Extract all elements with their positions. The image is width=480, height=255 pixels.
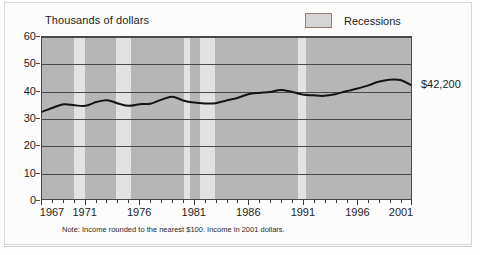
- legend-label-recessions: Recessions: [344, 15, 401, 27]
- y-tick-mark: [36, 200, 40, 201]
- x-tick-mark: [368, 200, 369, 203]
- x-tick-mark: [41, 200, 42, 205]
- legend: Recessions: [305, 13, 401, 28]
- x-tick-mark: [379, 200, 380, 203]
- x-tick-label: 1981: [182, 206, 206, 218]
- x-tick-mark: [205, 200, 206, 203]
- x-tick-mark: [259, 200, 260, 203]
- y-axis-title: Thousands of dollars: [45, 14, 149, 26]
- x-tick-label: 1971: [72, 206, 96, 218]
- x-tick-mark: [216, 200, 217, 203]
- x-tick-mark: [303, 200, 304, 205]
- series-line-income: [42, 37, 411, 199]
- x-tick-mark: [161, 200, 162, 203]
- x-tick-mark: [194, 200, 195, 205]
- x-tick-mark: [314, 200, 315, 203]
- x-tick-mark: [183, 200, 184, 203]
- y-tick-label: 0: [14, 194, 36, 206]
- y-tick-mark: [36, 63, 40, 64]
- x-tick-mark: [139, 200, 140, 205]
- x-tick-mark: [150, 200, 151, 203]
- x-tick-mark: [357, 200, 358, 205]
- y-tick-label: 30: [14, 112, 36, 124]
- x-tick-mark: [390, 200, 391, 203]
- legend-swatch-recessions: [305, 13, 332, 28]
- chart-note: Note: Income rounded to the nearest $100…: [62, 225, 285, 234]
- end-value-annotation: $42,200: [421, 78, 461, 90]
- y-tick-label: 10: [14, 167, 36, 179]
- x-tick-mark: [96, 200, 97, 203]
- plot-area: [41, 36, 412, 200]
- y-axis-tick-labels: 0102030405060: [12, 36, 36, 200]
- y-tick-mark: [36, 145, 40, 146]
- chart-figure: Thousands of dollars Recessions 01020304…: [0, 0, 480, 255]
- x-tick-mark: [248, 200, 249, 205]
- x-tick-mark: [237, 200, 238, 203]
- x-tick-mark: [336, 200, 337, 203]
- y-tick-label: 20: [14, 139, 36, 151]
- bottom-rule: [4, 246, 472, 247]
- y-tick-label: 40: [14, 85, 36, 97]
- x-tick-mark: [347, 200, 348, 203]
- x-tick-mark: [411, 200, 412, 205]
- x-tick-label: 1986: [236, 206, 260, 218]
- x-axis-tick-labels: 19671971197619811986199119962001: [41, 206, 412, 222]
- y-tick-label: 50: [14, 57, 36, 69]
- y-tick-mark: [36, 91, 40, 92]
- x-tick-mark: [270, 200, 271, 203]
- x-tick-mark: [325, 200, 326, 203]
- x-tick-mark: [106, 200, 107, 203]
- y-tick-mark: [36, 173, 40, 174]
- y-tick-mark: [36, 118, 40, 119]
- x-tick-mark: [401, 200, 402, 203]
- x-tick-mark: [52, 200, 53, 203]
- x-tick-mark: [292, 200, 293, 203]
- y-tick-mark: [36, 36, 40, 37]
- x-tick-mark: [85, 200, 86, 205]
- x-tick-label: 1976: [127, 206, 151, 218]
- x-tick-label: 1967: [40, 206, 64, 218]
- x-tick-label: 1991: [291, 206, 315, 218]
- x-tick-mark: [281, 200, 282, 203]
- x-tick-label: 2001: [389, 206, 413, 218]
- x-tick-mark: [74, 200, 75, 203]
- x-tick-mark: [117, 200, 118, 203]
- x-tick-mark: [63, 200, 64, 203]
- x-tick-label: 1996: [345, 206, 369, 218]
- x-tick-mark: [227, 200, 228, 203]
- y-tick-label: 60: [14, 30, 36, 42]
- x-tick-mark: [172, 200, 173, 203]
- x-axis-tick-marks: [41, 200, 412, 205]
- x-tick-mark: [128, 200, 129, 203]
